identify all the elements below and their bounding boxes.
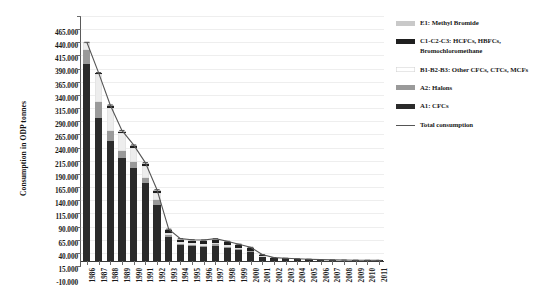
x-axis-tickmark [87,261,88,265]
legend-swatch [396,85,415,90]
y-axis-tick-label: 190.000 [55,172,78,181]
y-axis-tick-label: 40.000 [59,251,78,260]
x-axis-tickmark [99,261,100,265]
legend-swatch [396,125,415,126]
total-consumption-polyline [87,42,379,260]
x-axis-tickmarks [81,261,384,265]
x-axis-tick-label: 2010 [369,268,377,282]
x-axis-tick-label: 1998 [229,268,237,282]
legend-label: E1: Methyl Bromide [420,18,479,28]
y-axis-tick-label: 215.000 [55,159,78,168]
x-axis-tickmark [321,261,322,265]
x-axis-tick-label: 2009 [358,268,366,282]
x-axis-tickmark [122,261,123,265]
y-axis-tick-label: 115.000 [55,212,78,221]
legend-item[interactable]: C1-C2-C3: HCFCs, HBFCs, Bromochlorometha… [396,36,546,56]
legend-swatch [396,21,415,26]
legend-label: Total consumption [420,120,473,130]
y-axis-tick-label: 90.000 [59,225,78,234]
y-axis-tick-label: 165.000 [55,185,78,194]
y-axis-tick-label: 465.000 [55,28,78,37]
x-axis-tick-label: 2008 [346,268,354,282]
x-axis-tick-labels: 1986198719881989199019911992199319941995… [80,268,384,306]
legend-item[interactable]: A2: Halons [396,83,546,93]
x-axis-tick-label: 1997 [217,268,225,282]
y-axis-tick-label: 340.000 [55,93,78,102]
x-axis-tickmark [297,261,298,265]
x-axis-tick-label: 2011 [381,268,389,282]
x-axis-tick-label: 1989 [124,268,132,282]
y-axis-tickmark [77,266,81,267]
y-axis-tick-label: 240.000 [55,146,78,155]
legend-label: A1: CFCs [420,101,448,111]
legend-swatch [396,39,415,44]
x-axis-tickmark [309,261,310,265]
x-axis-tickmark [379,261,380,265]
y-axis-tick-label: 290.000 [55,120,78,129]
y-axis-tick-label: 390.000 [55,67,78,76]
x-axis-tick-label: 1988 [112,268,120,282]
legend-swatch [396,104,415,109]
x-axis-tick-label: 2004 [299,268,307,282]
legend-swatch [396,67,415,72]
x-axis-tick-label: 2007 [334,268,342,282]
x-axis-tickmark [157,261,158,265]
y-axis-tick-label: 415.000 [55,54,78,63]
y-axis-tick-label: 365.000 [55,80,78,89]
x-axis-tickmark [215,261,216,265]
legend-label: A2: Halons [420,83,452,93]
x-axis-tickmark [274,261,275,265]
x-axis-tick-label: 2000 [253,268,261,282]
chart-legend: E1: Methyl BromideC1-C2-C3: HCFCs, HBFCs… [396,18,546,138]
x-axis-tick-label: 1994 [182,268,190,282]
x-axis-tickmark [356,261,357,265]
x-axis-tick-label: 1987 [101,268,109,282]
x-axis-tick-label: 2005 [311,268,319,282]
legend-label: C1-C2-C3: HCFCs, HBFCs, Bromochlorometha… [420,36,546,56]
y-axis-tick-label: 315.000 [55,106,78,115]
x-axis-tick-label: 1995 [194,268,202,282]
y-axis-tick-label: 265.000 [55,133,78,142]
plot-area [80,16,384,266]
x-axis-tick-label: 1999 [241,268,249,282]
y-axis-tick-label: 140.000 [55,199,78,208]
x-axis-tick-label: 1993 [171,268,179,282]
x-axis-tick-label: 1996 [206,268,214,282]
x-axis-tickmark [344,261,345,265]
y-axis-tick-label: -10.000 [56,278,78,287]
y-axis-tick-label: 15.000 [59,264,78,273]
legend-label: B1-B2-B3: Other CFCs, CTCs, MCFs [420,65,528,75]
x-axis-tickmark [169,261,170,265]
total-consumption-line [81,16,385,266]
x-axis-tickmark [204,261,205,265]
chart-container: Consumption in ODP tonnes 465.000440.000… [0,0,546,306]
y-axis-title: Consumption in ODP tonnes [16,48,32,248]
x-axis-tickmark [110,261,111,265]
y-axis-tick-label: 65.000 [59,238,78,247]
x-axis-tick-label: 2002 [276,268,284,282]
x-axis-tick-label: 2003 [288,268,296,282]
x-axis-tickmark [332,261,333,265]
x-axis-tickmark [227,261,228,265]
x-axis-tick-label: 2001 [264,268,272,282]
x-axis-tickmark [286,261,287,265]
x-axis-tickmark [192,261,193,265]
legend-item[interactable]: A1: CFCs [396,101,546,111]
x-axis-tickmark [180,261,181,265]
legend-item[interactable]: E1: Methyl Bromide [396,18,546,28]
x-axis-tickmark [134,261,135,265]
legend-item[interactable]: Total consumption [396,120,546,130]
x-axis-tickmark [251,261,252,265]
legend-item[interactable]: B1-B2-B3: Other CFCs, CTCs, MCFs [396,65,546,75]
x-axis-tickmark [262,261,263,265]
x-axis-tickmark [367,261,368,265]
x-axis-tick-label: 1992 [159,268,167,282]
y-axis-title-label: Consumption in ODP tonnes [20,100,29,195]
x-axis-tick-label: 1986 [89,268,97,282]
x-axis-tick-label: 1990 [136,268,144,282]
x-axis-tickmark [145,261,146,265]
y-axis-tick-labels: 465.000440.000415.000390.000365.000340.0… [34,16,78,266]
x-axis-tickmark [239,261,240,265]
y-axis-tick-label: 440.000 [55,41,78,50]
x-axis-tick-label: 2006 [323,268,331,282]
